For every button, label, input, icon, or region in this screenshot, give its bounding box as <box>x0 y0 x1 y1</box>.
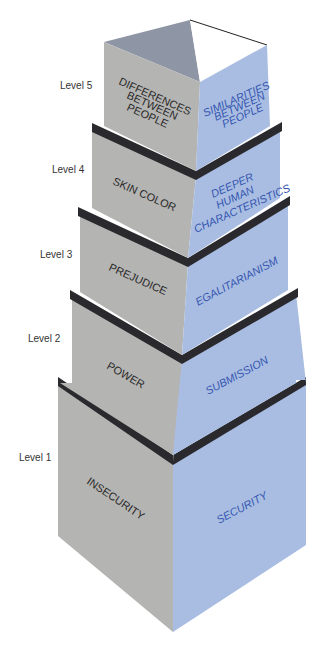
level-label-3: Level 3 <box>40 249 72 260</box>
level-label-5: Level 5 <box>60 80 92 91</box>
tower-diagram: DIFFERENCES BETWEEN PEOPLE SKIN COLOR PR… <box>0 0 318 647</box>
tower-graphic: DIFFERENCES BETWEEN PEOPLE SKIN COLOR PR… <box>0 0 318 647</box>
level-label-4: Level 4 <box>52 164 84 175</box>
level-label-2: Level 2 <box>28 333 60 344</box>
level-label-1: Level 1 <box>19 452 51 463</box>
